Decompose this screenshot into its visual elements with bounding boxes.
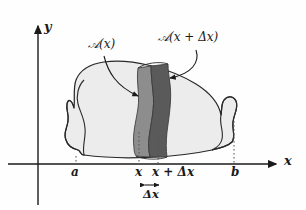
y-axis-label: y [44,20,52,33]
tick-label-x: x [135,166,142,178]
label-area-of-x-plus-delta-x: 𝒜(x + Δx) [158,31,218,43]
tick-label-b: b [231,166,239,178]
label-area-of-x: 𝒜(x) [88,38,115,50]
delta-x-label: Δx [143,189,159,201]
tick-label-x-plus-delta-x: x + Δx [152,166,194,178]
figure-root: y x 𝒜(x) 𝒜(x + Δx) a x x + Δx b Δx [0,0,306,210]
tick-label-a: a [71,166,79,178]
x-axis-label: x [284,154,292,167]
